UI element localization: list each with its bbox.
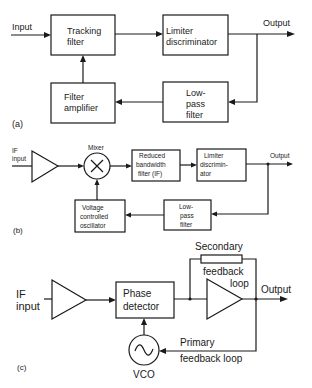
arrowhead-icon <box>287 31 295 37</box>
vco-label-2: controlled <box>80 213 109 220</box>
arrowhead-icon <box>287 162 293 167</box>
if-input-label-1: IF <box>12 147 18 154</box>
filter-amplifier-label-2: amplifier <box>64 103 98 113</box>
if-input-label-2: input <box>16 300 40 312</box>
limiter-label-2: discrimin- <box>200 161 228 168</box>
secondary-label-3: loop <box>230 278 249 289</box>
if-input-label-2: input <box>12 155 26 163</box>
arrowhead-icon <box>191 163 197 168</box>
tracking-filter-label-1: Tracking <box>67 26 101 36</box>
arrowhead-icon <box>80 55 86 62</box>
secondary-label-1: Secondary <box>195 241 243 252</box>
secondary-label-2: feedback <box>203 266 245 277</box>
mixer-label: Mixer <box>88 144 105 151</box>
panel-b: IF input Mixer Reduced bandwidth filter … <box>12 144 293 235</box>
limiter-label-1: Limiter <box>204 152 224 159</box>
feedback-resistor <box>201 255 242 263</box>
arrowhead-icon <box>115 99 122 105</box>
output-label: Output <box>270 152 290 160</box>
arrowhead-icon <box>280 296 288 302</box>
amplifier-triangle-icon <box>52 280 86 319</box>
arrowhead-icon <box>109 297 116 303</box>
pll-block-diagrams: Input Tracking filter Limiter discrimina… <box>0 0 312 388</box>
lowpass-label-1: Low- <box>179 203 193 210</box>
arrowhead-icon <box>156 31 163 37</box>
input-label: Input <box>12 22 33 32</box>
primary-label-1: Primary <box>180 337 214 348</box>
arrowhead-icon <box>141 318 147 325</box>
lowpass-label-1: Low- <box>186 88 206 98</box>
feedback-line <box>233 34 257 102</box>
lowpass-label-3: filter <box>180 221 193 228</box>
primary-label-2: feedback loop <box>180 353 243 364</box>
reduced-filter-label-1: Reduced <box>139 152 165 159</box>
tracking-filter-label-2: filter <box>67 37 84 47</box>
vco-label-3: oscillator <box>80 222 106 229</box>
arrowhead-icon <box>159 348 166 354</box>
arrowhead-icon <box>125 213 131 218</box>
panel-b-label: (b) <box>13 226 23 235</box>
amplifier-triangle-icon <box>32 151 58 182</box>
output-label: Output <box>263 18 291 28</box>
limiter-label-1: Limiter <box>166 26 193 36</box>
phase-detector-label-1: Phase <box>123 288 152 299</box>
vco-label-1: Voltage <box>82 204 104 212</box>
lowpass-label-3: filter <box>186 110 203 120</box>
lowpass-label-2: pass <box>186 99 206 109</box>
lowpass-label-2: pass <box>180 212 194 220</box>
output-label: Output <box>261 284 291 295</box>
if-input-label-1: IF <box>16 288 26 300</box>
panel-a: Input Tracking filter Limiter discrimina… <box>11 15 295 129</box>
arrowhead-icon <box>126 164 132 169</box>
arrowhead-icon <box>228 99 235 105</box>
limiter-label-2: discriminator <box>166 37 217 47</box>
arrowhead-icon <box>78 164 84 169</box>
panel-c-label: (c) <box>17 363 27 372</box>
arrowhead-icon <box>211 212 217 217</box>
arrowhead-icon <box>95 179 100 185</box>
panel-a-label: (a) <box>12 119 23 129</box>
secondary-loop-left <box>190 259 201 299</box>
limiter-label-3: ator <box>200 170 212 177</box>
phase-detector-label-2: detector <box>123 301 160 312</box>
reduced-filter-label-3: filter (IF) <box>138 170 162 178</box>
filter-amplifier-label-1: Filter <box>64 92 84 102</box>
vco-label: VCO <box>133 369 155 380</box>
arrowhead-icon <box>44 32 51 38</box>
panel-c: IF input Phase detector Secondary feedba… <box>16 241 291 380</box>
reduced-filter-label-2: bandwidth <box>136 161 166 168</box>
